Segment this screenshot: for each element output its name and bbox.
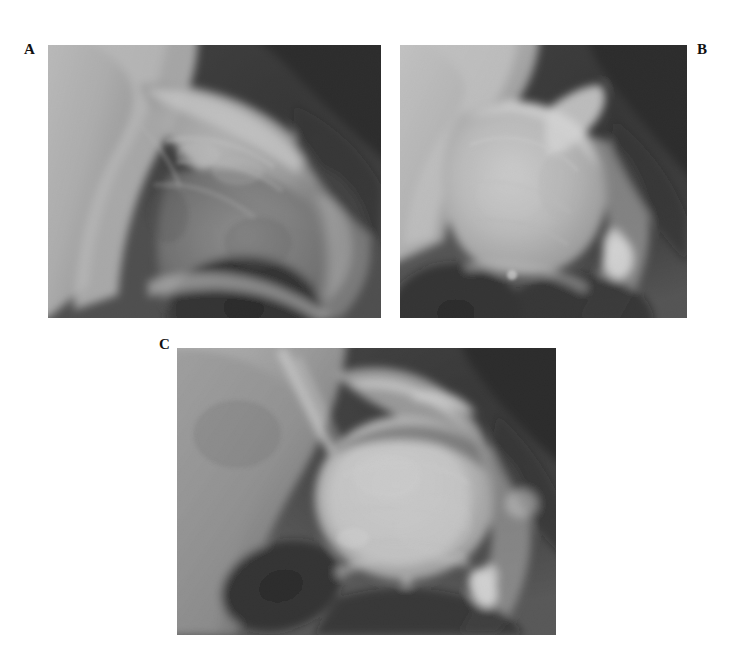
radiograph-image-a [48,45,381,318]
radiograph-image-b [400,45,687,318]
panel-label-a: A [24,42,35,57]
radiograph-image-c [177,348,556,635]
panel-label-b: B [697,42,708,57]
radiograph-panel-c [177,348,556,635]
radiograph-panel-a [48,45,381,318]
radiograph-panel-b [400,45,687,318]
panel-label-c: C [159,337,170,352]
figure-root: A [0,0,737,649]
